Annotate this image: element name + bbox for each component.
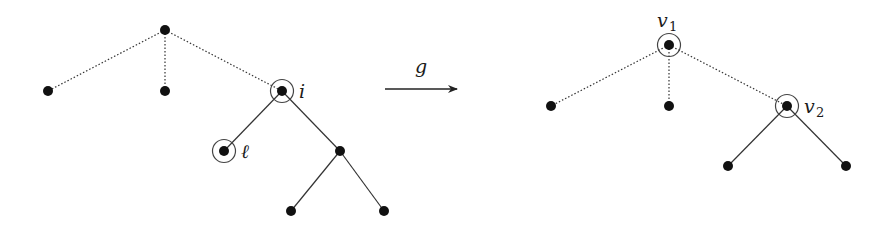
edge-root-i: [165, 30, 282, 91]
label-l: ℓ: [241, 140, 249, 162]
label-v1: v 1: [657, 9, 677, 34]
edge-i-c: [282, 91, 340, 151]
left-tree: i ℓ: [43, 25, 389, 216]
label-v2-main: v: [804, 95, 815, 117]
node-i: [277, 86, 287, 96]
edge-c-d: [291, 151, 340, 211]
edge-v1-p: [551, 45, 669, 106]
left-tree-edges: [48, 30, 384, 211]
node-a: [43, 86, 53, 96]
label-v2: v 2: [804, 95, 824, 120]
label-v1-sub: 1: [669, 19, 677, 34]
node-root: [160, 25, 170, 35]
right-tree: v 1 v 2: [546, 9, 851, 171]
label-i: i: [299, 80, 305, 102]
node-r: [723, 161, 733, 171]
right-tree-edges: [551, 45, 846, 166]
edge-root-a: [48, 30, 165, 91]
node-b: [160, 86, 170, 96]
label-g: g: [415, 55, 427, 77]
node-c: [335, 146, 345, 156]
label-v2-sub: 2: [816, 105, 824, 120]
edge-i-l: [224, 91, 282, 151]
node-p: [546, 101, 556, 111]
edge-c-e: [340, 151, 384, 211]
map-arrow-g: g: [385, 55, 457, 89]
node-v2: [782, 101, 792, 111]
node-v1: [664, 40, 674, 50]
node-l: [219, 146, 229, 156]
label-v1-main: v: [657, 9, 668, 31]
node-s: [841, 161, 851, 171]
tree-map-diagram: i ℓ g v 1 v 2: [0, 0, 892, 228]
node-q: [664, 101, 674, 111]
edge-v1-v2: [669, 45, 787, 106]
node-d: [286, 206, 296, 216]
edge-v2-r: [728, 106, 787, 166]
node-e: [379, 206, 389, 216]
left-tree-nodes: [43, 25, 389, 216]
